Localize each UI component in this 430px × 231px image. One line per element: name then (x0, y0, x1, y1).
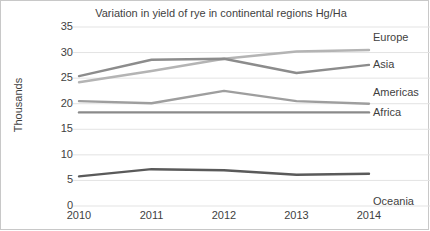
x-axis-tick-label: 2012 (194, 209, 254, 221)
x-axis-tick-label: 2014 (339, 209, 399, 221)
series-line-asia (79, 59, 369, 76)
series-line-americas (79, 91, 369, 104)
series-lines (79, 50, 369, 176)
series-label-americas: Americas (373, 86, 419, 98)
series-label-europe: Europe (373, 31, 408, 43)
plot-area (1, 1, 430, 231)
series-label-asia: Asia (373, 58, 394, 70)
x-axis-tick-label: 2013 (267, 209, 327, 221)
series-line-oceania (79, 169, 369, 176)
x-axis-tick-label: 2010 (49, 209, 109, 221)
series-label-oceania: Oceania (373, 195, 414, 207)
series-label-africa: Africa (373, 106, 401, 118)
x-axis-tick-label: 2011 (122, 209, 182, 221)
